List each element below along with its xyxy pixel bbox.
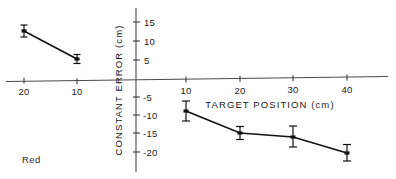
y-tick-label-minus5: -5 [143, 92, 152, 103]
constant-error-chart: 15 10 5 -5 -10 -15 -20 20 10 10 20 30 40… [0, 0, 396, 179]
left-series-line [24, 31, 77, 59]
x-axis-line [6, 77, 388, 82]
y-tick-label-10: 10 [144, 36, 155, 47]
right-series-line [186, 111, 347, 153]
x-tick-label-left-20: 20 [18, 86, 29, 97]
y-tick-label-minus10: -10 [143, 110, 158, 121]
x-tick-label-right-10: 10 [180, 85, 191, 96]
right-series-point-1 [182, 101, 190, 121]
left-series-point-2 [74, 55, 81, 64]
y-axis-title: CONSTANT ERROR (cm) [113, 25, 124, 156]
x-tick-label-right-20: 20 [234, 85, 245, 96]
y-tick-label-minus15: -15 [143, 128, 158, 139]
x-tick-label-right-40: 40 [341, 84, 352, 95]
y-tick-label-5: 5 [144, 55, 150, 66]
y-tick-label-15: 15 [144, 17, 155, 28]
condition-label: Red [22, 154, 41, 165]
y-tick-label-minus20: -20 [143, 147, 158, 158]
x-axis-title: TARGET POSITION (cm) [205, 99, 334, 110]
x-tick-label-right-30: 30 [287, 84, 298, 95]
left-series-point-1 [21, 25, 28, 37]
x-tick-label-left-10: 10 [71, 86, 82, 97]
